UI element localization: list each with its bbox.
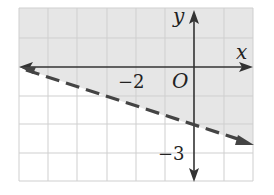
- y-axis-label: y: [172, 4, 185, 28]
- x-axis-label: x: [236, 40, 247, 64]
- x-tick-label: −2: [118, 71, 145, 92]
- origin-label: O: [172, 69, 188, 93]
- coordinate-graph: y x O −2 −3: [0, 0, 274, 195]
- y-tick-label: −3: [158, 143, 185, 164]
